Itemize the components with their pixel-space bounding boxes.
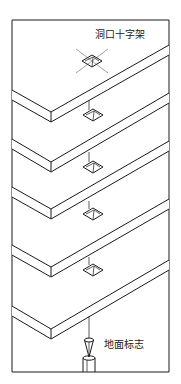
slab-top-edge	[12, 45, 169, 112]
opening-cross-frame	[76, 49, 108, 73]
opening-depth	[93, 111, 94, 121]
slab-face	[12, 260, 169, 339]
slab-opening	[83, 109, 103, 121]
floor-slab	[12, 260, 169, 339]
plumb-bob-top	[85, 338, 94, 342]
plumb-line-transfer-diagram: 洞口十字架 地面标志	[0, 0, 181, 384]
floor-slabs	[12, 45, 169, 339]
slab-opening	[83, 264, 103, 276]
opening-depth	[92, 57, 93, 67]
slab-opening	[83, 161, 103, 173]
opening-depth	[93, 163, 94, 173]
plumb-bob	[85, 338, 94, 357]
label-top-marker: 洞口十字架	[95, 28, 145, 40]
slab-top-edge	[12, 260, 169, 329]
label-ground-marker: 地面标志	[104, 338, 144, 350]
slab-opening	[83, 208, 103, 220]
opening-depth	[93, 266, 94, 276]
opening-depth	[93, 210, 94, 220]
slab-top-edge	[12, 141, 169, 209]
